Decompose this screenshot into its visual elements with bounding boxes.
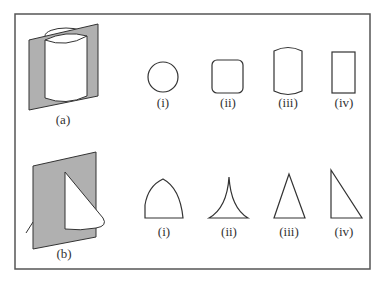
cross-section-figure: (a) (i) (ii) (iii) (iv) (b) (i) (ii) (ii…	[0, 0, 384, 281]
cylinder-body	[45, 34, 87, 102]
label-a: (a)	[56, 112, 70, 127]
solid-b-cone	[26, 152, 104, 249]
label-b-iii: (iii)	[279, 224, 299, 239]
label-a-iii: (iii)	[278, 95, 298, 110]
label-b-i: (i)	[158, 224, 170, 239]
label-b: (b)	[56, 246, 71, 261]
label-a-iv: (iv)	[335, 95, 354, 110]
label-a-i: (i)	[157, 95, 169, 110]
label-a-ii: (ii)	[220, 95, 236, 110]
label-b-ii: (ii)	[221, 224, 237, 239]
label-b-iv: (iv)	[335, 224, 354, 239]
